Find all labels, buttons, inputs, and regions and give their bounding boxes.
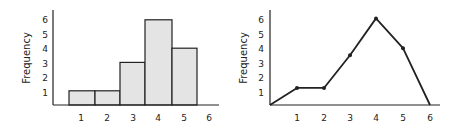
x-tick-label: 4 bbox=[155, 113, 161, 123]
x-tick-label: 6 bbox=[206, 113, 212, 123]
y-tick-label: 4 bbox=[258, 44, 264, 54]
y-tick-label: 1 bbox=[258, 88, 264, 98]
x-tick-label: 2 bbox=[104, 113, 110, 123]
y-tick-label: 2 bbox=[258, 73, 264, 83]
y-tick-label: 1 bbox=[42, 88, 48, 98]
y-tick-label: 6 bbox=[42, 15, 48, 25]
data-point-marker bbox=[374, 16, 378, 20]
y-axis-label: Frequency bbox=[238, 32, 249, 84]
y-axis-label: Frequency bbox=[21, 32, 32, 84]
data-point-marker bbox=[348, 53, 352, 57]
data-point-marker bbox=[295, 86, 299, 90]
x-tick-label: 2 bbox=[321, 113, 327, 123]
histogram-bar bbox=[95, 91, 120, 105]
y-tick-label: 2 bbox=[42, 73, 48, 83]
data-point-marker bbox=[322, 86, 326, 90]
y-tick-label: 5 bbox=[258, 30, 264, 40]
x-tick-label: 3 bbox=[130, 113, 136, 123]
histogram-bar bbox=[172, 48, 197, 105]
y-tick-label: 4 bbox=[42, 44, 48, 54]
x-tick-label: 5 bbox=[181, 113, 187, 123]
frequency-polygon-chart: 123456123456Frequency bbox=[238, 10, 440, 123]
charts-canvas: 123456123456Frequency 123456123456Freque… bbox=[0, 0, 461, 135]
data-point-marker bbox=[401, 46, 405, 50]
y-tick-label: 3 bbox=[42, 59, 48, 69]
frequency-line bbox=[270, 18, 430, 105]
x-tick-label: 1 bbox=[294, 113, 300, 123]
y-tick-label: 3 bbox=[258, 59, 264, 69]
y-tick-label: 5 bbox=[42, 30, 48, 40]
x-tick-label: 6 bbox=[427, 113, 433, 123]
histogram-bar bbox=[69, 91, 95, 105]
histogram-bar bbox=[145, 20, 172, 105]
x-tick-label: 1 bbox=[78, 113, 84, 123]
x-tick-label: 4 bbox=[373, 113, 379, 123]
x-tick-label: 5 bbox=[400, 113, 406, 123]
y-tick-label: 6 bbox=[258, 15, 264, 25]
x-tick-label: 3 bbox=[347, 113, 353, 123]
histogram-bar bbox=[120, 62, 145, 105]
histogram-chart: 123456123456Frequency bbox=[21, 10, 219, 123]
